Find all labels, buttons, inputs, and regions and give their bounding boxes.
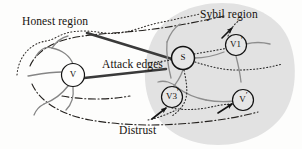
- attack-edges-label: Attack edges: [102, 59, 163, 71]
- node-label-s: S: [177, 53, 189, 62]
- honest-region-label: Honest region: [22, 16, 88, 28]
- sybil-attack-diagram: Honest region Sybil region Attack edges …: [0, 0, 302, 149]
- node-label-v-honest: V: [67, 70, 79, 79]
- node-label-v3-prime: V3′: [164, 92, 181, 101]
- sybil-region-shape: [145, 3, 295, 145]
- sybil-region-label: Sybil region: [200, 9, 258, 21]
- node-label-v-prime: V′: [237, 95, 250, 104]
- node-label-v1-prime: V1′: [228, 40, 245, 49]
- distrust-label: Distrust: [119, 125, 156, 137]
